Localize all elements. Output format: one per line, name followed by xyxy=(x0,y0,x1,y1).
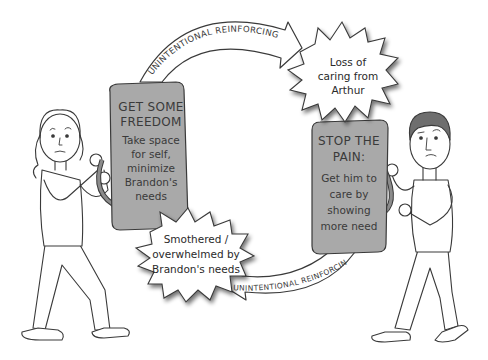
left-shield-title-line1: GET SOME xyxy=(118,100,184,115)
right-shield-body-line: Get him to xyxy=(314,172,384,185)
bottom-burst-line: Brandon's needs xyxy=(146,263,246,276)
right-shield-body-line: showing xyxy=(314,204,384,217)
left-shield-body-line: Brandon's xyxy=(118,176,184,189)
top-burst-line: Loss of xyxy=(305,56,391,69)
left-shield-title-line2: FREEDOM xyxy=(118,115,184,130)
top-burst-line: caring from xyxy=(305,70,391,83)
right-shield-title-line1: STOP THE xyxy=(314,134,384,149)
left-shield-body-line: for self, xyxy=(118,148,184,161)
top-reinforcing-arrow: UNINTENTIONAL REINFORCING xyxy=(140,22,302,82)
bottom-burst-line: Smothered / xyxy=(146,233,246,246)
right-shield-title-line2: PAIN: xyxy=(314,150,384,165)
bottom-burst-line: overwhelmed by xyxy=(146,248,246,261)
left-shield-body-line: Take space xyxy=(118,134,184,147)
left-shield-body-line: minimize xyxy=(118,162,184,175)
top-burst-line: Arthur xyxy=(305,84,391,97)
left-shield-body-line: needs xyxy=(118,190,184,203)
right-shield-body-line: care by xyxy=(314,188,384,201)
right-shield-body-line: more need xyxy=(314,220,384,233)
cycle-illustration: UNINTENTIONAL REINFORCING UNINTENTIONAL … xyxy=(0,0,488,360)
